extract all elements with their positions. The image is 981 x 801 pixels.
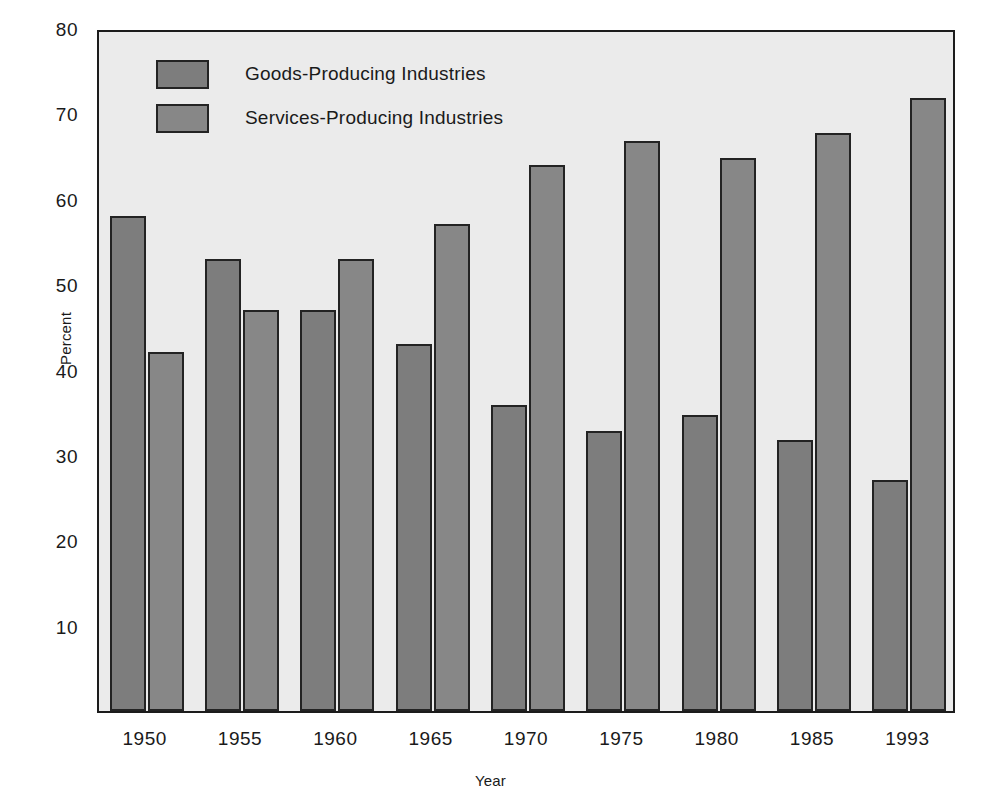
bar-1980-services [720,158,756,711]
x-tick-label: 1993 [852,728,962,750]
bar-1955-services [243,310,279,711]
bar-1955-goods [205,259,241,711]
x-tick-label: 1985 [757,728,867,750]
bar-1965-goods [396,344,432,711]
x-axis-label: Year [0,772,981,789]
bar-1970-services [529,165,565,711]
x-tick-label: 1950 [90,728,200,750]
x-tick-label: 1955 [185,728,295,750]
legend-item-goods: Goods-Producing Industries [156,54,576,94]
bar-1960-services [338,259,374,711]
y-tick-label: 70 [32,105,78,124]
bar-1960-goods [300,310,336,711]
x-tick-label: 1975 [566,728,676,750]
y-tick-label: 60 [32,191,78,210]
bar-1993-goods [872,480,908,711]
bar-1985-services [815,133,851,711]
bar-1950-services [148,352,184,711]
x-tick-label: 1960 [280,728,390,750]
y-tick-label: 50 [32,276,78,295]
x-tick-label: 1970 [471,728,581,750]
y-tick-label: 80 [32,20,78,39]
legend-label-services: Services-Producing Industries [245,107,503,129]
bar-1980-goods [682,415,718,711]
legend-swatch-goods-icon [156,60,209,89]
bar-1975-services [624,141,660,711]
bar-1970-goods [491,405,527,711]
x-tick-label: 1965 [376,728,486,750]
legend-label-goods: Goods-Producing Industries [245,63,486,85]
legend-item-services: Services-Producing Industries [156,98,576,138]
y-tick-label: 40 [32,362,78,381]
bar-1950-goods [110,216,146,711]
legend-swatch-services-icon [156,104,209,133]
bar-1993-services [910,98,946,711]
y-axis-tick-labels: 8070605040302010 [32,0,78,801]
bar-1975-goods [586,431,622,711]
bar-1985-goods [777,440,813,711]
plot-area: Goods-Producing Industries Services-Prod… [97,30,955,713]
chart-legend: Goods-Producing Industries Services-Prod… [156,54,576,142]
bar-1965-services [434,224,470,711]
bar-chart-figure: Percent 8070605040302010 Goods-Producing… [0,0,981,801]
y-tick-label: 10 [32,618,78,637]
y-tick-label: 20 [32,532,78,551]
x-tick-label: 1980 [662,728,772,750]
y-tick-label: 30 [32,447,78,466]
